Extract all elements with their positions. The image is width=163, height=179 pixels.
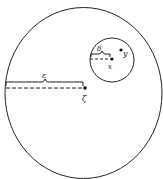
zeta-point xyxy=(83,86,87,90)
x-point xyxy=(110,57,113,60)
diagram: ε ζ δ x y xyxy=(0,0,163,179)
x-label: x xyxy=(108,63,112,71)
epsilon-brace xyxy=(6,79,83,86)
delta-label: δ xyxy=(97,45,101,53)
epsilon-label: ε xyxy=(42,71,46,80)
zeta-label: ζ xyxy=(82,94,87,103)
outer-circle xyxy=(5,8,162,179)
y-label: y xyxy=(122,49,128,58)
